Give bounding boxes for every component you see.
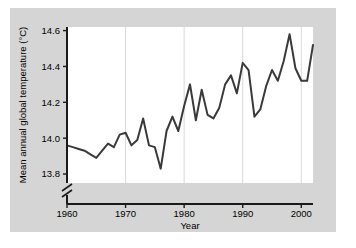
x-tick-label: 1960 bbox=[56, 208, 77, 219]
y-tick-label: 14.0 bbox=[42, 133, 61, 144]
plot-background bbox=[67, 27, 313, 183]
y-axis-tick-labels: 13.814.014.214.414.6 bbox=[42, 25, 61, 179]
y-axis-title: Mean annual global temperature (°C) bbox=[17, 27, 28, 183]
x-tick-label: 1990 bbox=[232, 208, 253, 219]
y-tick-label: 14.4 bbox=[42, 61, 61, 72]
x-tick-label: 1970 bbox=[115, 208, 136, 219]
x-axis-tick-labels: 19601970198019902000 bbox=[56, 208, 311, 219]
y-tick-label: 13.8 bbox=[42, 168, 61, 179]
x-tick-label: 1980 bbox=[174, 208, 195, 219]
temperature-line-chart: 13.814.014.214.414.6 1960197019801990200… bbox=[10, 8, 336, 232]
x-tick-label: 2000 bbox=[291, 208, 312, 219]
chart-plot-area: 13.814.014.214.414.6 1960197019801990200… bbox=[10, 8, 336, 232]
figure-panel: 13.814.014.214.414.6 1960197019801990200… bbox=[10, 8, 336, 232]
y-tick-label: 14.2 bbox=[42, 97, 61, 108]
y-tick-label: 14.6 bbox=[42, 25, 61, 36]
x-axis-title: Year bbox=[180, 220, 199, 231]
